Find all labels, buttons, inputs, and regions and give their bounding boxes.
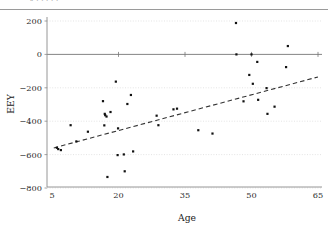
- data-point: [273, 106, 275, 108]
- data-point: [211, 132, 213, 134]
- data-point: [103, 124, 105, 126]
- data-point: [285, 66, 287, 68]
- data-point: [102, 100, 104, 102]
- y-tick-label--600: −600: [20, 150, 43, 160]
- x-tick-label-65: 65: [313, 190, 323, 200]
- data-point: [266, 113, 268, 115]
- y-tick-label--200: −200: [20, 83, 43, 93]
- data-point: [124, 170, 126, 172]
- y-tick-label-200: 200: [26, 16, 42, 26]
- data-point: [157, 124, 159, 126]
- data-point: [176, 108, 178, 110]
- plot-area: 2000−200−400−600−800 520355065 Age EEY: [0, 0, 328, 228]
- data-point: [287, 45, 289, 47]
- data-point: [117, 154, 119, 156]
- regression-trendline: [54, 77, 318, 148]
- data-point: [70, 124, 72, 126]
- scatter-plot-figure: „ , , , , , 2000−200−400−600−800 5203550…: [0, 0, 328, 228]
- gridlines-group: [47, 21, 322, 188]
- data-point: [123, 153, 125, 155]
- y-tick-labels-group: 2000−200−400−600−800: [20, 16, 43, 193]
- data-point: [242, 100, 244, 102]
- x-tick-label-5: 5: [49, 190, 54, 200]
- data-point: [235, 22, 237, 24]
- data-point: [256, 61, 258, 63]
- data-point: [115, 81, 117, 83]
- y-tick-label--800: −800: [20, 183, 43, 193]
- data-point: [60, 149, 62, 151]
- data-point: [109, 111, 111, 113]
- data-point: [132, 150, 134, 152]
- data-point: [126, 103, 128, 105]
- data-point: [57, 148, 59, 150]
- data-point: [105, 115, 107, 117]
- y-tick-label--400: −400: [20, 116, 43, 126]
- data-point: [248, 74, 250, 76]
- axis-lines-group: [47, 17, 322, 187]
- tick-marks-group: [45, 21, 319, 188]
- trendline-group: [54, 77, 318, 148]
- x-tick-labels-group: 520355065: [49, 190, 323, 200]
- data-point: [265, 87, 267, 89]
- data-point: [250, 53, 252, 55]
- data-point: [106, 176, 108, 178]
- y-tick-label-0: 0: [37, 49, 42, 59]
- data-point: [130, 94, 132, 96]
- data-point: [197, 129, 199, 131]
- x-tick-label-35: 35: [180, 190, 190, 200]
- y-axis-title: EEY: [5, 93, 16, 113]
- x-axis-title: Age: [177, 212, 196, 223]
- data-point: [156, 115, 158, 117]
- data-point: [235, 53, 237, 55]
- data-point: [257, 99, 259, 101]
- data-point: [252, 83, 254, 85]
- data-point: [117, 127, 119, 129]
- data-point: [75, 140, 77, 142]
- data-point: [87, 131, 89, 133]
- x-tick-label-20: 20: [113, 190, 123, 200]
- x-tick-label-50: 50: [246, 190, 256, 200]
- data-point: [172, 108, 174, 110]
